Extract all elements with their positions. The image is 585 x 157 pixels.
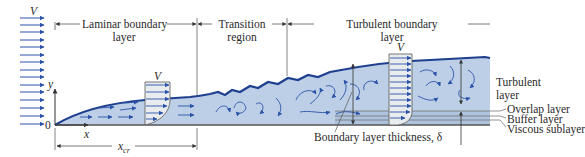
turbulent-layer-label-line2: layer [496,89,519,101]
viscous-sublayer-label: Viscous sublayer [507,123,585,135]
x-axis-label: x [84,128,89,140]
boundary-layer-thickness-label: Boundary layer thickness, δ [314,131,442,143]
turbulent-layer-label-line1: Turbulent [496,76,541,88]
x-critical-subscript: cr [123,146,130,155]
x-critical-label: xcr [118,140,130,157]
turbulent-velocity-profile [389,54,412,125]
turbulent-region-label-line2: layer [316,31,468,43]
sublayer-band [335,111,490,125]
origin-label: 0 [45,119,51,131]
laminar-region-label-line2: layer [82,31,166,43]
transition-region-label-line1: Transition [212,18,272,30]
turbulent-region-label-line1: Turbulent boundary [316,18,468,30]
transition-region-label-line2: region [212,31,272,43]
freestream-arrows [20,18,44,124]
turbulent-profile-velocity-label: V [397,41,404,53]
y-axis-label: y [48,78,53,90]
freestream-velocity-label: V [30,5,37,17]
laminar-profile-velocity-label: V [154,70,161,82]
laminar-region-label-line1: Laminar boundary [82,18,166,30]
